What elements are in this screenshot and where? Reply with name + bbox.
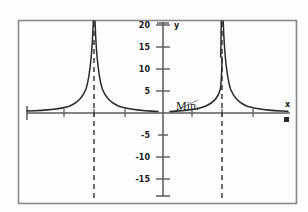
- y-tick-label-minus15: -15: [136, 175, 151, 184]
- x-axis-label: x: [285, 100, 291, 109]
- y-tick-label-minus10: -10: [136, 153, 151, 162]
- y-tick-label-15: 15: [139, 43, 151, 52]
- curve-branch-right-outer: [223, 21, 288, 111]
- y-tick-label-10: 10: [139, 65, 151, 74]
- y-tick-label-minus5: -5: [141, 131, 150, 140]
- y-tick-label-5: 5: [144, 87, 150, 96]
- y-axis-label: y: [174, 21, 180, 30]
- function-graph-plot: 20 15 10 5 -5 -10 -15 y x Min.: [0, 0, 308, 212]
- y-tick-label-20: 20: [139, 21, 151, 30]
- curve-branch-left-outer: [27, 21, 93, 111]
- curve-branch-right-inner-upper: [221, 21, 222, 57]
- scan-mark-square: [284, 117, 289, 122]
- graph-figure: 20 15 10 5 -5 -10 -15 y x Min.: [0, 0, 308, 212]
